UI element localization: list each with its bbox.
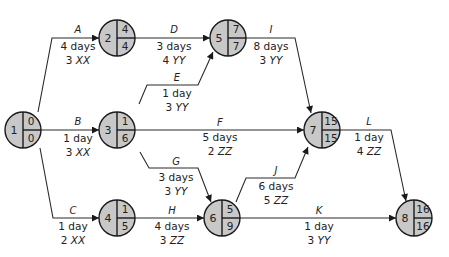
svg-text:D: D <box>170 24 178 35</box>
svg-text:3 days: 3 days <box>157 40 192 52</box>
svg-text:4 ZZ: 4 ZZ <box>357 145 382 157</box>
node-7: 7 15 15 <box>304 112 340 148</box>
svg-text:5: 5 <box>227 203 234 215</box>
svg-text:E: E <box>174 72 181 83</box>
node-3: 3 1 6 <box>99 112 135 148</box>
svg-text:A: A <box>74 24 82 35</box>
svg-text:3 XX: 3 XX <box>66 146 91 158</box>
svg-text:5: 5 <box>122 220 129 232</box>
svg-text:3: 3 <box>105 124 112 137</box>
svg-text:B: B <box>75 116 82 127</box>
activity-k-label: K 1 day 3 YY <box>304 205 333 246</box>
svg-text:1: 1 <box>122 115 129 127</box>
svg-text:4 days: 4 days <box>155 220 190 232</box>
network-diagram: A 4 days 3 XX B 1 day 3 XX C 1 day 2 XX … <box>0 0 449 257</box>
svg-text:J: J <box>273 165 278 176</box>
svg-text:5 days: 5 days <box>203 131 238 143</box>
svg-text:3 YY: 3 YY <box>260 54 284 66</box>
svg-text:9: 9 <box>227 220 234 232</box>
svg-text:3 YY: 3 YY <box>166 101 190 113</box>
svg-text:4: 4 <box>122 23 129 35</box>
svg-text:3 ZZ: 3 ZZ <box>160 234 185 246</box>
svg-text:7: 7 <box>233 40 240 52</box>
svg-text:6: 6 <box>122 132 129 144</box>
svg-text:15: 15 <box>324 115 337 127</box>
node-1: 1 0 0 <box>5 112 41 148</box>
nodes: 1 0 0 2 4 4 3 1 6 4 1 5 <box>5 20 432 236</box>
activity-d-label: D 3 days 4 YY <box>157 24 192 66</box>
svg-text:7: 7 <box>310 124 317 137</box>
svg-text:H: H <box>168 205 176 216</box>
svg-text:G: G <box>172 156 180 167</box>
node-4: 4 1 5 <box>99 200 135 236</box>
svg-text:3 days: 3 days <box>159 171 194 183</box>
svg-text:2 ZZ: 2 ZZ <box>208 145 233 157</box>
svg-text:15: 15 <box>324 132 337 144</box>
svg-text:1: 1 <box>122 203 129 215</box>
node-2: 2 4 4 <box>99 20 135 56</box>
svg-text:1: 1 <box>11 124 18 137</box>
svg-text:5 ZZ: 5 ZZ <box>264 194 289 206</box>
svg-text:1 day: 1 day <box>304 220 333 232</box>
svg-text:2 XX: 2 XX <box>61 234 86 246</box>
svg-text:2: 2 <box>105 32 112 45</box>
svg-text:0: 0 <box>28 115 35 127</box>
activity-e-label: E 1 day 3 YY <box>162 72 191 113</box>
svg-text:6 days: 6 days <box>259 180 294 192</box>
activity-l-label: L 1 day 4 ZZ <box>354 116 383 157</box>
svg-text:4 YY: 4 YY <box>163 54 187 66</box>
svg-text:16: 16 <box>416 203 430 215</box>
svg-text:8 days: 8 days <box>254 40 289 52</box>
svg-text:5: 5 <box>216 32 223 45</box>
svg-text:1 day: 1 day <box>354 131 383 143</box>
svg-text:16: 16 <box>416 220 430 232</box>
activity-h-label: H 4 days 3 ZZ <box>155 205 190 246</box>
svg-text:8: 8 <box>402 212 409 225</box>
activity-i-label: I 8 days 3 YY <box>254 24 289 66</box>
svg-text:3 XX: 3 XX <box>66 54 91 66</box>
svg-text:3 YY: 3 YY <box>165 185 189 197</box>
activity-g-label: G 3 days 3 YY <box>159 156 194 197</box>
activity-j-label: J 6 days 5 ZZ <box>259 165 294 206</box>
svg-text:6: 6 <box>210 212 217 225</box>
activity-a-label: A 4 days 3 XX <box>61 24 96 66</box>
svg-text:1 day: 1 day <box>58 220 87 232</box>
svg-text:C: C <box>70 205 77 216</box>
svg-text:1 day: 1 day <box>162 87 191 99</box>
svg-text:4 days: 4 days <box>61 40 96 52</box>
node-5: 5 7 7 <box>210 20 246 56</box>
svg-text:4: 4 <box>122 40 129 52</box>
svg-text:7: 7 <box>233 23 240 35</box>
activity-f-label: F 5 days 2 ZZ <box>203 117 238 157</box>
svg-text:4: 4 <box>105 212 112 225</box>
svg-text:L: L <box>366 116 372 127</box>
svg-text:K: K <box>316 205 324 216</box>
svg-text:3 YY: 3 YY <box>308 234 332 246</box>
node-6: 6 5 9 <box>204 200 240 236</box>
svg-text:1 day: 1 day <box>63 132 92 144</box>
svg-text:F: F <box>217 117 223 128</box>
svg-text:0: 0 <box>28 132 35 144</box>
node-8: 8 16 16 <box>396 200 432 236</box>
svg-text:I: I <box>270 24 273 35</box>
activity-c-label: C 1 day 2 XX <box>58 205 87 246</box>
activity-b-label: B 1 day 3 XX <box>63 116 92 158</box>
